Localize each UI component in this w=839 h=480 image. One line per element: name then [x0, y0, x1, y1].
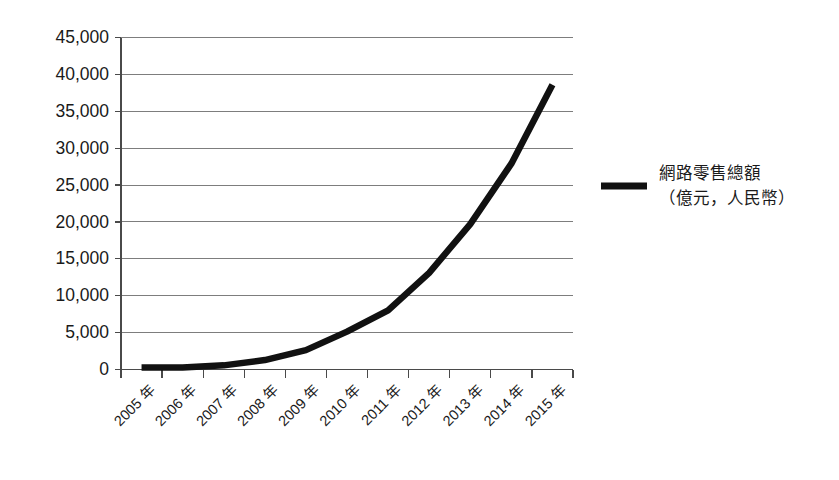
x-tick-label: 2008 年	[234, 382, 281, 429]
chart-figure: 05,00010,00015,00020,00025,00030,00035,0…	[0, 0, 839, 480]
line-chart: 05,00010,00015,00020,00025,00030,00035,0…	[0, 0, 839, 480]
x-tick-label: 2007 年	[193, 382, 240, 429]
data-series-group	[142, 85, 553, 368]
x-tick-labels-group: 2005 年2006 年2007 年2008 年2009 年2010 年2011…	[111, 382, 569, 429]
x-tick-label: 2015 年	[522, 382, 569, 429]
y-tick-label: 25,000	[55, 175, 109, 195]
y-tick-label: 15,000	[55, 248, 109, 268]
x-tick-label: 2013 年	[440, 382, 487, 429]
legend-swatch	[601, 183, 647, 190]
gridlines-group	[121, 38, 573, 370]
y-tick-label: 30,000	[55, 138, 109, 158]
y-axis-group	[115, 38, 121, 370]
legend-label-line2: （億元，人民幣）	[659, 189, 795, 207]
x-tick-label: 2006 年	[152, 382, 199, 429]
x-tick-label: 2012 年	[398, 382, 445, 429]
series-line	[142, 85, 553, 368]
y-tick-label: 0	[99, 359, 109, 379]
legend-label-line1: 網路零售總額	[659, 164, 761, 182]
y-tick-label: 35,000	[55, 101, 109, 121]
x-tick-label: 2010 年	[316, 382, 363, 429]
y-tick-label: 5,000	[65, 322, 109, 342]
y-tick-labels-group: 05,00010,00015,00020,00025,00030,00035,0…	[55, 27, 109, 379]
legend-group: 網路零售總額（億元，人民幣）	[601, 164, 795, 207]
y-tick-label: 20,000	[55, 212, 109, 232]
y-tick-label: 45,000	[55, 27, 109, 47]
x-tick-label: 2014 年	[481, 382, 528, 429]
y-tick-label: 40,000	[55, 64, 109, 84]
x-tick-label: 2005 年	[111, 382, 158, 429]
x-tick-label: 2011 年	[358, 382, 404, 428]
x-axis-group	[121, 370, 573, 378]
x-tick-label: 2009 年	[275, 382, 322, 429]
y-tick-label: 10,000	[55, 285, 109, 305]
